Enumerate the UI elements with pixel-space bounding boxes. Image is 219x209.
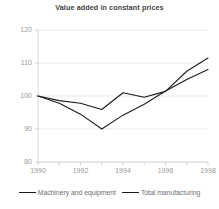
y-tick-label-90: 90 xyxy=(6,125,32,133)
series-line-0 xyxy=(38,70,208,129)
x-tick-label-1996: 1996 xyxy=(151,167,181,175)
chart-legend: Machinery and equipmentTotal manufacturi… xyxy=(0,189,219,196)
legend-item-0[interactable]: Machinery and equipment xyxy=(19,189,116,196)
legend-item-1[interactable]: Total manufacturing xyxy=(122,189,200,196)
x-tick-label-1990: 1990 xyxy=(23,167,53,175)
y-tick-label-110: 110 xyxy=(6,59,32,67)
legend-line-swatch-icon xyxy=(19,192,36,193)
legend-label: Total manufacturing xyxy=(141,189,200,196)
x-tick-label-1998: 1998 xyxy=(193,167,219,175)
gridlines xyxy=(38,30,208,162)
y-tick-label-100: 100 xyxy=(6,92,32,100)
y-tick-label-120: 120 xyxy=(6,26,32,34)
plot-area xyxy=(0,0,219,209)
series-line-1 xyxy=(38,58,208,109)
legend-line-swatch-icon xyxy=(122,192,139,193)
legend-label: Machinery and equipment xyxy=(38,189,116,196)
y-tick-label-80: 80 xyxy=(6,158,32,166)
series-lines xyxy=(38,58,208,129)
x-tick-marks xyxy=(35,30,208,165)
x-tick-label-1994: 1994 xyxy=(108,167,138,175)
x-tick-label-1992: 1992 xyxy=(66,167,96,175)
chart-container: Value added in constant prices 809010011… xyxy=(0,0,219,209)
